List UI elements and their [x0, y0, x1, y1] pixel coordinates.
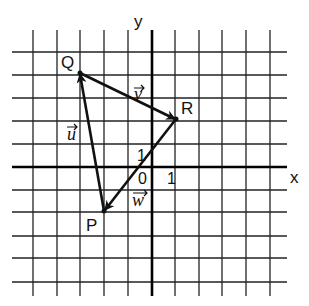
vector-v-label: v	[134, 84, 144, 104]
x-axis-label: x	[290, 168, 299, 187]
point-r-label: R	[181, 99, 193, 118]
x-unit-label: 1	[167, 170, 176, 187]
svg-text:v: v	[134, 84, 142, 104]
point-p-label: P	[86, 216, 97, 235]
y-axis-label: y	[134, 12, 143, 31]
coordinate-grid-diagram: y x 1 0 1 Q R P v u w	[0, 0, 309, 306]
vector-w-label: w	[132, 190, 147, 210]
vector-u-label: u	[67, 124, 77, 144]
origin-label: 0	[138, 170, 147, 187]
point-r-dot	[174, 117, 179, 122]
point-p-dot	[102, 209, 107, 214]
point-q-label: Q	[61, 53, 74, 72]
y-unit-label: 1	[137, 147, 146, 164]
point-q-dot	[78, 71, 83, 76]
